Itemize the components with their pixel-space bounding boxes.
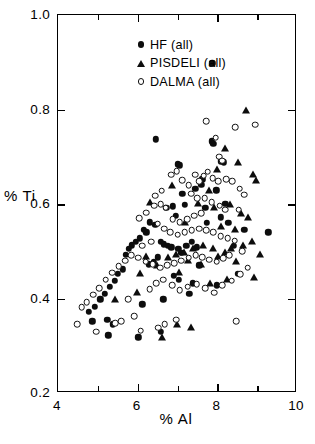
data-point <box>244 264 251 271</box>
data-point <box>115 263 122 270</box>
data-point <box>143 209 150 216</box>
data-point <box>128 252 135 259</box>
data-point <box>222 206 229 213</box>
data-point <box>118 318 125 325</box>
data-point <box>155 324 162 331</box>
x-axis-label: % Al <box>159 410 192 427</box>
scatter-plot-figure: 0.20.40.60.81.0 % Ti HF (all) PISDELI (a… <box>0 0 315 444</box>
data-point <box>189 227 196 234</box>
data-point <box>199 241 207 248</box>
data-point <box>86 309 92 315</box>
data-point <box>153 280 160 287</box>
data-point <box>181 202 187 208</box>
data-point <box>177 287 184 294</box>
data-point <box>91 304 97 310</box>
data-point <box>193 281 200 288</box>
data-point <box>178 257 185 264</box>
data-point <box>168 244 174 250</box>
legend-item: DALMA (all) <box>132 74 226 89</box>
data-point <box>176 276 182 282</box>
data-point <box>252 121 259 128</box>
data-point <box>115 271 121 277</box>
data-point <box>136 270 144 277</box>
data-point <box>173 316 180 323</box>
data-point <box>202 285 209 292</box>
data-point <box>74 321 81 328</box>
data-point <box>160 296 166 302</box>
filled-triangle-icon <box>132 60 150 67</box>
y-axis-tick-label: 0.4 <box>0 290 50 305</box>
data-point <box>139 301 145 307</box>
data-point <box>215 178 222 185</box>
data-point <box>229 178 236 185</box>
data-point <box>206 256 213 263</box>
data-point <box>150 261 157 268</box>
data-point <box>157 201 164 208</box>
data-point <box>170 203 176 209</box>
data-point <box>186 291 192 297</box>
data-point <box>133 289 141 296</box>
data-point <box>203 118 210 125</box>
data-point <box>107 283 113 289</box>
data-point <box>174 231 181 238</box>
data-point <box>241 227 247 233</box>
data-point <box>168 181 176 188</box>
data-point <box>188 190 195 197</box>
data-point <box>160 276 167 283</box>
data-point <box>232 238 239 245</box>
y-axis-tick-label: 0.8 <box>0 101 50 116</box>
data-point <box>210 140 216 146</box>
data-point <box>103 276 110 283</box>
data-point <box>233 318 240 325</box>
data-point <box>187 324 195 331</box>
data-point <box>220 255 227 262</box>
data-point <box>196 225 203 232</box>
data-point <box>236 186 243 193</box>
data-point <box>198 210 205 217</box>
data-point <box>204 220 210 226</box>
data-point <box>212 135 219 142</box>
data-point <box>90 291 97 298</box>
data-point <box>248 238 256 245</box>
data-point <box>185 283 192 290</box>
legend-item-label: PISDELI (all) <box>150 56 226 70</box>
data-point <box>168 171 175 178</box>
data-point <box>237 271 244 278</box>
data-point <box>244 213 252 220</box>
data-point <box>142 258 149 265</box>
data-point <box>152 136 158 142</box>
data-point <box>143 229 149 235</box>
data-point <box>201 195 208 202</box>
data-point <box>192 171 199 178</box>
x-axis-tick-label: 6 <box>133 398 141 413</box>
data-point <box>213 187 219 193</box>
data-point <box>189 245 197 252</box>
data-point <box>213 258 220 265</box>
data-point <box>256 251 264 258</box>
x-axis-tick-label: 10 <box>288 398 304 413</box>
data-point <box>138 327 145 334</box>
data-point <box>111 295 119 302</box>
data-point <box>234 158 242 165</box>
data-point <box>136 215 143 222</box>
data-point <box>171 260 178 267</box>
x-axis-tick-label: 4 <box>53 398 61 413</box>
data-point <box>219 282 226 289</box>
legend-item: PISDELI (all) <box>132 56 226 71</box>
plot-frame: HF (all) PISDELI (all) DALMA (all) <box>57 14 296 392</box>
data-point <box>164 253 172 260</box>
data-point <box>193 252 200 259</box>
data-point <box>213 166 221 173</box>
data-point <box>217 233 224 240</box>
data-point <box>105 332 111 338</box>
data-point <box>172 251 180 258</box>
data-point <box>232 124 239 131</box>
legend-item-label: DALMA (all) <box>150 75 220 89</box>
data-point <box>164 262 171 269</box>
data-point <box>205 187 213 194</box>
data-point <box>197 260 205 267</box>
legend-item-label: HF (all) <box>150 38 193 52</box>
y-axis-label: % Ti <box>4 187 36 204</box>
data-point <box>265 229 271 235</box>
data-point <box>217 214 223 220</box>
